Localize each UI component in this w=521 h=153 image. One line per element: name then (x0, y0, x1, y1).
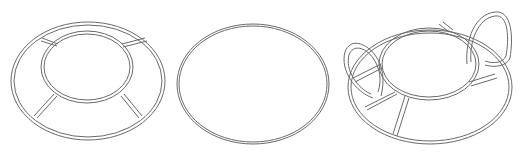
ring-trivet-with-spokes-drawing (0, 0, 175, 153)
ring-trivet-with-handles-drawing (335, 0, 521, 153)
ring-with-spokes-icon (0, 0, 175, 153)
plain-ring-icon (170, 0, 345, 153)
ring-with-handles-icon (335, 0, 521, 153)
plain-ring-drawing (170, 0, 345, 153)
